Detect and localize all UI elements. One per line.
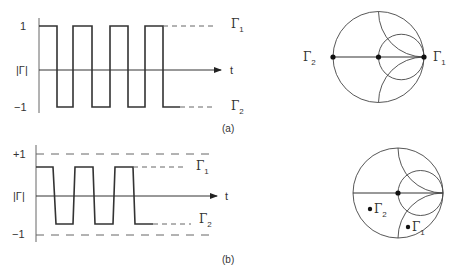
tick-label-top: 1 (20, 20, 26, 32)
gamma2-label: Γ2 (231, 99, 244, 116)
panel-a-waveform: 1 −1 |Γ| t Γ1 Γ2 (a) (14, 17, 244, 134)
square-wave (39, 26, 180, 107)
y-axis-label: |Γ| (13, 190, 25, 202)
point-gamma2 (330, 54, 335, 59)
tick-label-bottom: −1 (12, 228, 25, 240)
gamma2-label: Γ2 (199, 212, 212, 229)
point-center (395, 190, 400, 195)
caption-a: (a) (222, 123, 234, 134)
tick-label-bottom: −1 (14, 101, 27, 113)
tick-label-top: +1 (13, 148, 26, 160)
smith-a-gamma1-label: Γ1 (433, 50, 446, 67)
smith-b-gamma2-label: Γ2 (374, 202, 387, 219)
point-gamma1 (421, 54, 426, 59)
y-axis-label: |Γ| (16, 64, 28, 76)
smith-b-gamma1-label: Γ1 (412, 220, 425, 237)
caption-b: (b) (222, 254, 234, 265)
panel-b-smith-chart (353, 148, 443, 238)
panel-b-waveform: +1 −1 |Γ| t Γ1 Γ2 (b) (12, 145, 234, 265)
x-axis-label: t (230, 64, 233, 76)
reflection-coefficient-diagram: 1 −1 |Γ| t Γ1 Γ2 (a) Γ2 Γ1 +1 −1 |Γ| t (0, 0, 458, 270)
gamma1-label: Γ1 (196, 159, 209, 176)
smith-a-gamma2-label: Γ2 (303, 50, 316, 67)
x-axis-label: t (225, 190, 228, 202)
panel-a-smith-chart (330, 12, 426, 103)
point-center (376, 54, 381, 59)
point-gamma1 (406, 225, 410, 229)
point-gamma2 (368, 207, 372, 211)
gamma1-label: Γ1 (231, 17, 244, 34)
